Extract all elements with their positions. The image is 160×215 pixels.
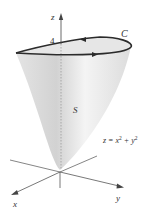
x-axis-arrow-icon [11, 190, 19, 195]
surface-label: S [73, 105, 78, 115]
curve-label: C [121, 28, 128, 39]
z-axis-arrow-icon [59, 13, 63, 20]
z-axis-label: z [50, 12, 55, 22]
x-axis-label: x [12, 199, 17, 209]
x-axis [15, 172, 60, 193]
equation-mid: + y [122, 136, 135, 145]
x-axis-back [10, 160, 60, 172]
y-axis [60, 172, 119, 186]
y-axis-label: y [115, 193, 120, 203]
y-axis-arrow-icon [117, 184, 125, 189]
surface-equation: z = x2 + y2 [102, 135, 138, 145]
height-tick-label: 4 [50, 36, 55, 46]
equation-exp-2: 2 [135, 135, 138, 141]
equation-lhs: z = x [102, 136, 120, 145]
paraboloid-figure: z 4 C S x y z = x2 + y2 [0, 0, 160, 215]
